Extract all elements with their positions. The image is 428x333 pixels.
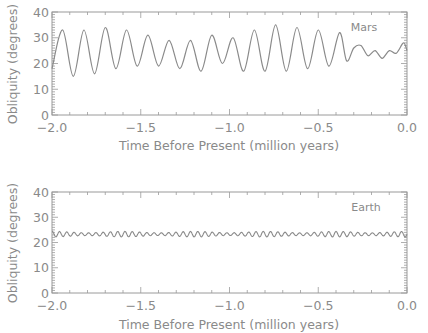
obliquity-figure: 010203040 −2.0−1.5−1.0−0.50.0 Mars Time … [0, 0, 428, 333]
mars-y-axis-title: Obliquity (degrees) [5, 4, 20, 124]
x-tick-label: 0.0 [397, 298, 417, 313]
x-tick-label: −0.5 [303, 120, 333, 135]
mars-x-axis-title: Time Before Present (million years) [118, 138, 339, 153]
y-tick-label: 10 [33, 82, 49, 97]
earth-x-axis-title: Time Before Present (million years) [118, 317, 339, 332]
x-tick-label: −0.5 [303, 298, 333, 313]
earth-obliquity-line [52, 231, 407, 237]
x-tick-label: −1.0 [214, 120, 244, 135]
x-tick-label: 0.0 [397, 120, 417, 135]
earth-y-axis-title: Obliquity (degrees) [5, 183, 20, 303]
y-tick-label: 40 [33, 185, 49, 200]
x-tick-label: −1.5 [126, 298, 156, 313]
y-tick-label: 10 [33, 260, 49, 275]
x-tick-label: −2.0 [37, 120, 67, 135]
y-tick-label: 40 [33, 5, 49, 20]
mars-panel: 010203040 −2.0−1.5−1.0−0.50.0 Mars Time … [5, 4, 417, 153]
x-tick-label: −1.5 [126, 120, 156, 135]
earth-panel-label: Earth [351, 201, 381, 214]
x-tick-label: −1.0 [214, 298, 244, 313]
earth-panel: 010203040 −2.0−1.5−1.0−0.50.0 Earth Time… [5, 183, 417, 332]
mars-panel-label: Mars [351, 21, 378, 34]
y-tick-label: 30 [33, 30, 49, 45]
x-tick-label: −2.0 [37, 298, 67, 313]
y-tick-label: 30 [33, 210, 49, 225]
y-tick-label: 20 [33, 235, 49, 250]
y-tick-label: 20 [33, 56, 49, 71]
